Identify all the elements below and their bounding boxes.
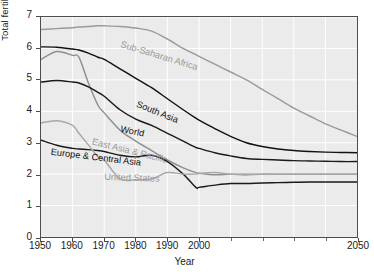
x-tick-mark [294,238,295,241]
y-tick-label: 3 [8,137,32,147]
y-tick-label: 6 [8,42,32,52]
x-tick-mark [263,238,264,241]
x-tick-mark [358,238,359,242]
x-tick-mark [40,238,41,242]
x-tick-mark [104,238,105,242]
plot-area: Sub-Saharan AfricaSouth AsiaWorldEast As… [40,16,358,238]
x-tick-mark [326,238,327,241]
y-tick-label: 7 [8,10,32,20]
sub-saharan-africa-label: Sub-Saharan Africa [119,39,199,72]
y-tick-label: 1 [8,200,32,210]
plot-canvas: Sub-Saharan AfricaSouth AsiaWorldEast As… [41,17,357,237]
gridlines [41,17,357,237]
x-tick-mark [231,238,232,241]
x-tick-label: 2050 [338,241,374,251]
y-tick-label: 4 [8,105,32,115]
x-tick-mark [167,238,168,242]
x-axis-title: Year [0,256,369,267]
x-tick-mark [135,238,136,242]
x-tick-mark [72,238,73,242]
x-tick-mark [199,238,200,242]
united-states-label: United States [104,172,160,184]
world-label: World [120,124,146,139]
y-tick-label: 5 [8,73,32,83]
x-tick-label: 2000 [179,241,219,251]
y-tick-label: 2 [8,169,32,179]
